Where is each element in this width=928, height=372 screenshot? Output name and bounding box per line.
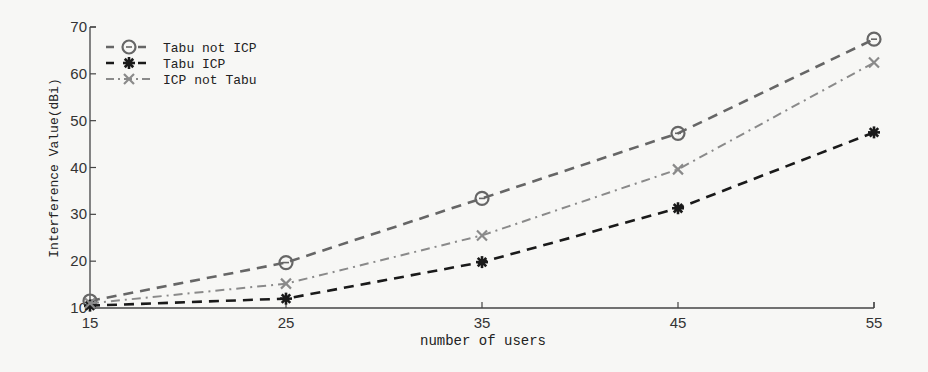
x-tick-label: 15 — [82, 314, 99, 331]
star-marker — [84, 300, 96, 312]
x-axis-label: number of users — [420, 333, 546, 349]
legend-item: Tabu ICP — [106, 57, 226, 72]
y-tick-label: 70 — [70, 18, 87, 35]
series-tabu-icp — [84, 126, 880, 311]
legend-label: Tabu ICP — [163, 57, 226, 72]
y-tick-label: 40 — [70, 159, 87, 176]
y-tick-label: 30 — [70, 205, 87, 222]
x-tick-label: 55 — [866, 314, 883, 331]
x-tick-label: 45 — [670, 314, 687, 331]
legend: Tabu not ICPTabu ICPICP not Tabu — [106, 41, 257, 89]
x-tick-label: 25 — [278, 314, 295, 331]
star-marker — [672, 202, 684, 214]
y-axis-label: Interference Value(dBi) — [47, 78, 62, 257]
line-chart: 102030405060701525354555 Tabu not ICPTab… — [0, 0, 928, 372]
y-tick-label: 60 — [70, 65, 87, 82]
legend-label: ICP not Tabu — [163, 73, 257, 88]
x-tick-label: 35 — [474, 314, 491, 331]
legend-label: Tabu not ICP — [163, 41, 257, 56]
star-marker — [123, 57, 135, 69]
star-marker — [280, 293, 292, 305]
x-marker — [869, 58, 879, 68]
x-marker — [477, 230, 487, 240]
star-marker — [868, 126, 880, 138]
x-marker — [673, 164, 683, 174]
legend-item: ICP not Tabu — [106, 73, 257, 88]
y-tick-label: 20 — [70, 252, 87, 269]
star-marker — [476, 256, 488, 268]
legend-item: Tabu not ICP — [106, 41, 257, 57]
y-tick-label: 50 — [70, 112, 87, 129]
